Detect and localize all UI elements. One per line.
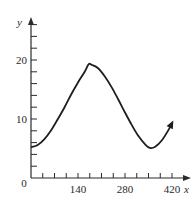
x-axis-label: x <box>183 183 189 195</box>
x-tick-labels: 0140280420 <box>21 177 181 195</box>
y-axis-arrow-icon <box>28 17 34 25</box>
axes <box>28 17 191 181</box>
y-tick-label: 20 <box>16 54 28 66</box>
data-curve <box>31 64 172 148</box>
x-tick-label: 420 <box>164 183 181 195</box>
y-tick-label: 10 <box>16 113 28 125</box>
x-ticks <box>43 173 172 178</box>
line-chart: 0140280420 1020 x y <box>0 0 195 198</box>
y-tick-labels: 1020 <box>16 54 28 125</box>
x-tick-label: 0 <box>21 177 27 189</box>
x-tick-label: 140 <box>70 183 87 195</box>
x-tick-label: 280 <box>117 183 134 195</box>
y-axis-label: y <box>16 16 22 28</box>
x-axis-arrow-icon <box>183 175 191 181</box>
